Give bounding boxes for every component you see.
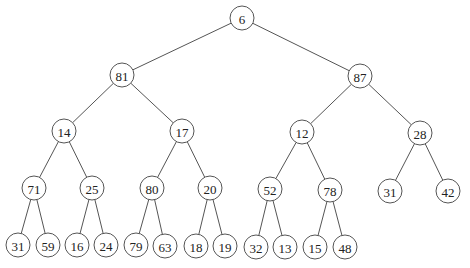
tree-node: 31: [6, 233, 30, 257]
tree-node: 16: [65, 233, 89, 257]
tree-edge: [69, 142, 86, 177]
tree-node: 31: [378, 179, 402, 203]
node-label: 13: [279, 241, 292, 256]
node-label: 15: [309, 241, 322, 256]
node-label: 78: [324, 184, 337, 199]
tree-edge: [318, 202, 327, 236]
tree-edge: [139, 200, 149, 234]
tree-edge: [396, 144, 415, 181]
tree-edge: [187, 142, 204, 177]
tree-edge: [369, 84, 412, 124]
node-label: 87: [354, 70, 368, 85]
node-label: 16: [71, 239, 85, 254]
node-label: 19: [219, 240, 232, 255]
tree-node: 24: [94, 233, 118, 257]
node-label: 79: [130, 239, 143, 254]
tree-node: 59: [36, 233, 60, 257]
tree-edge: [73, 83, 114, 122]
tree-edge: [158, 142, 177, 178]
node-label: 32: [250, 241, 263, 256]
node-label: 81: [116, 69, 129, 84]
tree-edge: [21, 200, 31, 234]
node-label: 31: [12, 239, 25, 254]
tree-edge: [307, 143, 325, 179]
tree-diagram: 6818714171228712580205278314231591624796…: [0, 0, 470, 268]
tree-node: 6: [230, 6, 254, 30]
tree-node: 32: [244, 235, 268, 259]
node-label: 71: [28, 182, 41, 197]
tree-node: 79: [124, 233, 148, 257]
node-label: 63: [159, 240, 172, 255]
tree-node: 18: [184, 234, 208, 258]
tree-node: 78: [318, 178, 342, 202]
tree-edge: [95, 200, 103, 234]
tree-edge: [273, 201, 282, 236]
tree-node: 80: [140, 176, 164, 200]
node-label: 24: [100, 239, 114, 254]
node-label: 31: [384, 185, 397, 200]
tree-node: 19: [213, 234, 237, 258]
node-label: 12: [296, 126, 309, 141]
node-label: 17: [176, 125, 190, 140]
tree-edge: [213, 200, 222, 235]
node-label: 25: [86, 182, 99, 197]
node-label: 42: [442, 185, 455, 200]
tree-edge: [333, 202, 342, 236]
edges-layer: [21, 23, 443, 235]
tree-edge: [40, 142, 59, 178]
tree-edge: [311, 84, 352, 123]
tree-node: 13: [273, 235, 297, 259]
node-label: 14: [58, 125, 72, 140]
tree-edge: [276, 142, 296, 178]
tree-node: 28: [408, 121, 432, 145]
tree-node: 25: [80, 176, 104, 200]
tree-edge: [37, 200, 45, 234]
tree-svg: 6818714171228712580205278314231591624796…: [0, 0, 470, 268]
tree-node: 12: [290, 120, 314, 144]
tree-node: 17: [170, 119, 194, 143]
tree-node: 15: [303, 235, 327, 259]
node-label: 28: [414, 127, 427, 142]
tree-edge: [80, 200, 89, 234]
tree-node: 81: [110, 63, 134, 87]
tree-node: 52: [258, 177, 282, 201]
node-label: 20: [204, 182, 217, 197]
tree-edge: [259, 201, 267, 236]
tree-edge: [155, 200, 163, 235]
tree-node: 14: [52, 119, 76, 143]
node-label: 80: [146, 182, 159, 197]
tree-node: 63: [153, 234, 177, 258]
tree-edge: [199, 200, 207, 235]
tree-edge: [425, 144, 443, 180]
tree-edge: [133, 23, 231, 70]
node-label: 52: [264, 183, 277, 198]
node-label: 48: [339, 241, 352, 256]
tree-node: 42: [436, 179, 460, 203]
node-label: 6: [239, 12, 246, 27]
tree-edge: [131, 83, 173, 123]
tree-node: 20: [198, 176, 222, 200]
tree-node: 87: [348, 64, 372, 88]
node-label: 59: [42, 239, 55, 254]
node-label: 18: [190, 240, 203, 255]
tree-node: 71: [22, 176, 46, 200]
tree-node: 48: [333, 235, 357, 259]
tree-edge: [253, 23, 349, 70]
nodes-layer: 6818714171228712580205278314231591624796…: [6, 6, 460, 259]
